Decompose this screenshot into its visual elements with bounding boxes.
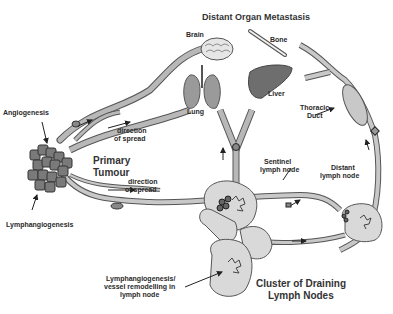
thoracic-duct-line2: Duct (307, 112, 323, 120)
angiogenesis-label: Angiogenesis (3, 109, 49, 117)
distant-node-line2: lymph node (320, 172, 359, 180)
bone-label: Bone (270, 36, 288, 44)
remodelling-line1: Lymphangiogenesis/ (106, 275, 175, 283)
diagram-title: Distant Organ Metastasis (202, 12, 310, 22)
thoracic-duct-line1: Thoracic (300, 104, 329, 112)
brain-label: Brain (186, 31, 204, 39)
sentinel-node-line1: Sentinel (264, 158, 291, 166)
primary-tumour-line1: Primary (93, 155, 130, 167)
direction-lower-line2: of spread (125, 186, 157, 194)
remodelling-line3: lymph node (120, 291, 159, 299)
lymphangiogenesis-label: Lymphangiogenesis (6, 221, 73, 229)
primary-tumour-line2: Tumour (93, 167, 129, 179)
metastasis-diagram: Distant Organ Metastasis Brain Bone Lung… (0, 0, 393, 314)
remodelling-line2: vessel remodelling in (104, 283, 175, 291)
cluster-line1: Cluster of Draining (256, 278, 346, 290)
lung-label: Lung (187, 108, 204, 116)
primary-tumour (28, 145, 72, 192)
brain-icon (201, 38, 233, 60)
cluster-line2: Lymph Nodes (268, 290, 334, 302)
lymphangiogenesis-pointer (32, 195, 37, 210)
direction-upper-line1: direction (117, 127, 147, 135)
distant-node-line1: Distant (331, 164, 355, 172)
direction-upper-line2: of spread (114, 135, 146, 143)
angiogenesis-pointer (42, 122, 47, 143)
sentinel-node-line2: lymph node (260, 166, 299, 174)
liver-label: Liver (268, 90, 285, 98)
diagram-canvas (0, 0, 393, 314)
direction-lower-line1: direction (128, 178, 158, 186)
lung-icon (184, 65, 221, 108)
